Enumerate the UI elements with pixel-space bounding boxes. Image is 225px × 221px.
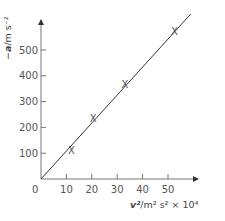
x-tick-label: 30 xyxy=(111,184,124,195)
best-fit-line xyxy=(41,14,191,179)
x-tick-label: 10 xyxy=(60,184,73,195)
y-label-sign: − xyxy=(2,52,13,60)
y-axis-label: −a/m s⁻² xyxy=(2,16,13,60)
chart: 100200300400500 1020304050 0 XXXX −a/m s… xyxy=(0,0,225,221)
y-tick-label: 500 xyxy=(19,45,38,56)
x-tick-label: 20 xyxy=(85,184,98,195)
x-axis-ticks: 1020304050 xyxy=(60,174,174,195)
x-axis-label: v²/m² s² × 10⁴ xyxy=(130,199,198,210)
origin-label: 0 xyxy=(32,184,38,195)
data-point-x-marker: X xyxy=(121,79,128,90)
y-label-unit: /m s⁻² xyxy=(2,16,13,45)
y-tick-label: 100 xyxy=(19,148,38,159)
y-tick-label: 200 xyxy=(19,122,38,133)
data-point-x-marker: X xyxy=(90,113,97,124)
y-axis-ticks: 100200300400500 xyxy=(19,45,46,159)
x-tick-label: 40 xyxy=(136,184,149,195)
x-label-unit: /m² s² × 10⁴ xyxy=(140,199,198,210)
x-tick-label: 50 xyxy=(162,184,175,195)
data-point-x-marker: X xyxy=(171,26,178,37)
y-tick-label: 400 xyxy=(19,70,38,81)
data-point-x-marker: X xyxy=(68,145,75,156)
y-tick-label: 300 xyxy=(19,96,38,107)
